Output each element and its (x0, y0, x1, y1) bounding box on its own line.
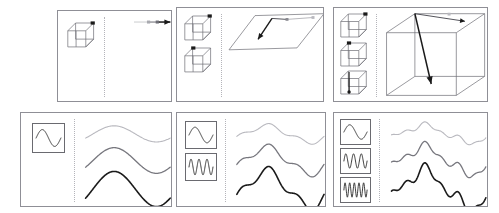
panel-divider (379, 119, 380, 203)
panel-inner (334, 113, 487, 206)
sine-thumbnail-2 (185, 153, 217, 181)
panel-inner (21, 113, 171, 206)
panel-content-box-arrows (380, 8, 487, 101)
panel-divider (74, 119, 75, 203)
panel-content-plane-path (225, 8, 323, 101)
cube-thumbnail-1 (183, 16, 213, 42)
cube-thumbnail-3 (339, 71, 369, 96)
panel-two-basis-curves (176, 112, 326, 207)
panel-one-cube-line (57, 10, 172, 102)
panel-three-basis-curves (333, 112, 488, 207)
panel-content-curves (383, 113, 487, 206)
panel-two-cubes-plane (176, 7, 324, 102)
sine-thumbnail-2 (340, 148, 371, 174)
cube-thumbnail-2 (183, 48, 213, 74)
panel-inner (177, 113, 325, 206)
sine-thumbnail-1 (185, 121, 217, 149)
panel-content-line-arrow (108, 11, 171, 101)
panel-content-curves (229, 113, 325, 206)
panel-divider (225, 119, 226, 203)
cube-thumbnail-1 (66, 23, 96, 49)
panel-inner (177, 8, 323, 101)
cube-thumbnail-1 (339, 14, 369, 39)
cube-thumbnail-2 (339, 43, 369, 68)
sine-thumbnail-1 (340, 119, 371, 145)
panel-one-basis-curves (20, 112, 172, 207)
panel-content-curves (78, 113, 171, 206)
panel-divider (104, 17, 105, 98)
panel-three-cubes-box (333, 7, 488, 102)
panel-inner (334, 8, 487, 101)
panel-divider (221, 14, 222, 98)
sine-thumbnail-1 (32, 123, 65, 153)
figure-canvas (0, 0, 499, 213)
panel-inner (58, 11, 171, 101)
sine-thumbnail-3 (340, 177, 371, 203)
panel-divider (376, 14, 377, 98)
